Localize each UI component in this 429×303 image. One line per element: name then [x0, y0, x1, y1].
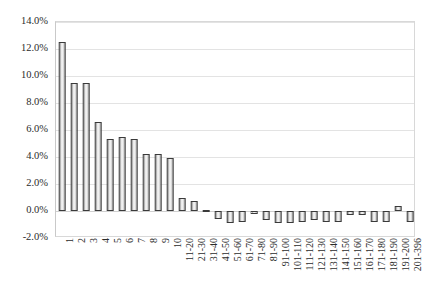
x-axis-tick-label: 91-100	[281, 238, 291, 302]
bar-slot	[404, 22, 415, 236]
bar-slot	[356, 22, 368, 236]
bar-slot	[272, 22, 284, 236]
bar-series	[56, 22, 414, 236]
bar-slot	[56, 22, 68, 236]
bar-slot	[212, 22, 224, 236]
x-axis-tick-label: 81-90	[269, 238, 279, 302]
x-axis-tick-label: 4	[101, 238, 111, 302]
bar	[263, 211, 270, 220]
bar	[107, 139, 114, 211]
bar	[287, 211, 294, 223]
bar	[179, 198, 186, 212]
bar-slot	[164, 22, 176, 236]
plot-area	[55, 21, 415, 237]
x-axis-tick-label: 9	[161, 238, 171, 302]
bar-slot	[104, 22, 116, 236]
x-axis-tick-label: 6	[125, 238, 135, 302]
y-axis-tick-label: 14.0%	[21, 16, 48, 27]
x-axis-tick-label: 2	[77, 238, 87, 302]
bar	[83, 83, 90, 211]
bar-slot	[236, 22, 248, 236]
x-axis-tick-label: 201-396	[413, 238, 423, 302]
bar	[119, 137, 126, 211]
y-axis-tick-label: 6.0%	[26, 124, 48, 135]
bar-slot	[296, 22, 308, 236]
bar-chart: 14.0%12.0%10.0%8.0%6.0%4.0%2.0%0.0%-2.0%…	[0, 0, 429, 303]
bar	[347, 211, 354, 215]
bar-slot	[344, 22, 356, 236]
x-axis-tick-label: 5	[113, 238, 123, 302]
x-axis-tick-label: 7	[137, 238, 147, 302]
bar-slot	[320, 22, 332, 236]
y-axis-tick-label: 0.0%	[26, 205, 48, 216]
bar-slot	[140, 22, 152, 236]
bar	[215, 211, 222, 219]
x-axis-tick-label: 8	[149, 238, 159, 302]
bar	[59, 42, 66, 211]
bar-slot	[284, 22, 296, 236]
bar-slot	[188, 22, 200, 236]
x-axis-tick-label: 131-140	[329, 238, 339, 302]
bar	[251, 211, 258, 214]
x-axis-tick-label: 181-190	[389, 238, 399, 302]
bar	[95, 122, 102, 211]
bar	[371, 211, 378, 222]
y-axis-tick-label: 12.0%	[21, 43, 48, 54]
x-axis-tick-label: 191-200	[401, 238, 411, 302]
x-axis-tick-label: 151-160	[353, 238, 363, 302]
y-axis-tick-label: 2.0%	[26, 178, 48, 189]
bar-slot	[80, 22, 92, 236]
x-axis-tick-label: 61-70	[245, 238, 255, 302]
bar	[335, 211, 342, 222]
bar-slot	[68, 22, 80, 236]
x-axis-tick-label: 31-40	[209, 238, 219, 302]
y-axis-tick-label: 10.0%	[21, 70, 48, 81]
bar-slot	[368, 22, 380, 236]
bar	[227, 211, 234, 223]
bar-slot	[200, 22, 212, 236]
bar	[395, 206, 402, 211]
bar	[383, 211, 390, 222]
x-axis-tick-label: 171-180	[377, 238, 387, 302]
bar-slot	[260, 22, 272, 236]
bar	[275, 211, 282, 223]
bar	[71, 83, 78, 211]
x-axis-tick-label: 111-120	[305, 238, 315, 302]
y-axis-tick-label: -2.0%	[23, 232, 48, 243]
bar	[299, 211, 306, 222]
bar	[143, 154, 150, 211]
x-axis-tick-label: 161-170	[365, 238, 375, 302]
bar	[311, 211, 318, 220]
bar-slot	[128, 22, 140, 236]
bar-slot	[92, 22, 104, 236]
x-axis-tick-label: 11-20	[185, 238, 195, 302]
bar-slot	[308, 22, 320, 236]
y-axis-tick-label: 4.0%	[26, 151, 48, 162]
bar-slot	[116, 22, 128, 236]
bar-slot	[176, 22, 188, 236]
x-axis-tick-label: 71-80	[257, 238, 267, 302]
bar-slot	[392, 22, 404, 236]
x-axis-tick-label: 1	[65, 238, 75, 302]
bar	[191, 201, 198, 211]
x-axis-tick-label: 41-50	[221, 238, 231, 302]
bar	[407, 211, 414, 222]
bar	[359, 211, 366, 215]
bar	[155, 154, 162, 211]
x-axis-tick-label: 121-130	[317, 238, 327, 302]
bar-slot	[248, 22, 260, 236]
bar	[131, 139, 138, 211]
x-axis-tick-label: 3	[89, 238, 99, 302]
y-axis-tick-label: 8.0%	[26, 97, 48, 108]
x-axis-tick-label: 141-150	[341, 238, 351, 302]
x-axis-tick-label: 101-110	[293, 238, 303, 302]
bar	[203, 210, 210, 213]
bar	[323, 211, 330, 222]
bar-slot	[224, 22, 236, 236]
x-axis-tick-label: 10	[173, 238, 183, 302]
bar-slot	[380, 22, 392, 236]
x-axis-tick-label: 51-60	[233, 238, 243, 302]
bar	[239, 211, 246, 222]
y-axis: 14.0%12.0%10.0%8.0%6.0%4.0%2.0%0.0%-2.0%	[0, 0, 52, 303]
bar	[167, 158, 174, 211]
